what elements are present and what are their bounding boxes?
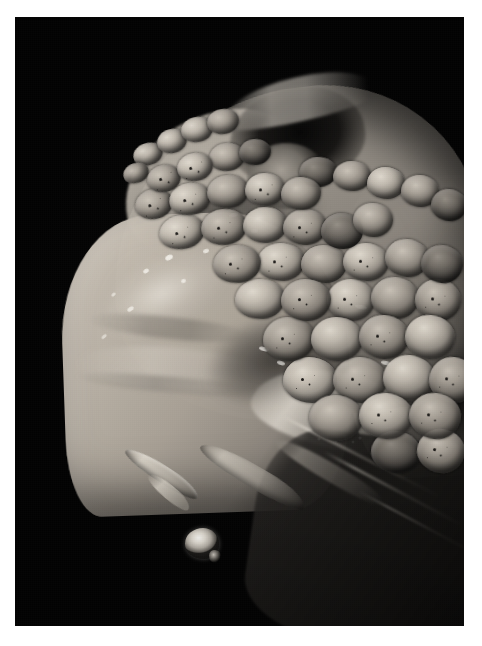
venom-droplet-tip <box>209 550 221 563</box>
photo-page: Macro photograph of a venomous snake's o… <box>0 0 482 646</box>
snake-subject <box>15 17 464 626</box>
head-scale <box>301 245 347 283</box>
head-scale <box>367 167 405 199</box>
head-scale <box>281 279 332 322</box>
head-scale <box>311 317 364 362</box>
snake-head-photograph: Macro photograph of a venomous snake's o… <box>15 17 464 626</box>
